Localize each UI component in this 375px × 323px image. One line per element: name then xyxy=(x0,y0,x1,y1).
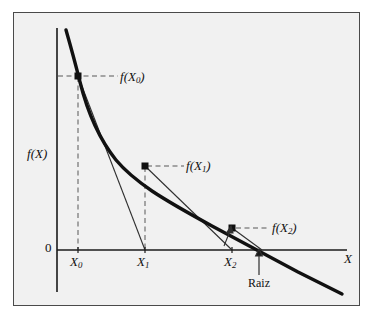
label-f-x0: f(X0) xyxy=(120,70,145,85)
figure-screenshot: f(X) 0 X f(X0) f(X1) f(X2) X0 X1 X2 Raiz xyxy=(0,0,375,323)
x-tick-label-x2: X2 xyxy=(224,255,236,270)
x-tick-label-x0: X0 xyxy=(70,255,82,270)
label-f-x2: f(X2) xyxy=(272,221,297,236)
root-annotation-label: Raiz xyxy=(248,277,270,289)
x-axis-label: X xyxy=(344,252,352,265)
label-f-x1: f(X1) xyxy=(186,159,211,174)
x-tick-label-x1: X1 xyxy=(137,255,149,270)
origin-label: 0 xyxy=(45,241,52,254)
y-axis-label: f(X) xyxy=(27,147,47,160)
